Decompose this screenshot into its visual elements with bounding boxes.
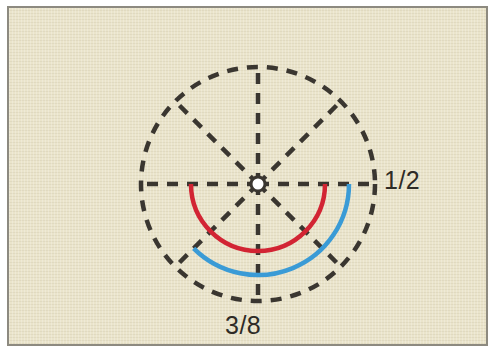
center-hub — [251, 177, 265, 191]
dashed-spoke-315deg — [258, 184, 341, 267]
figure-panel: 1/2 3/8 — [7, 6, 488, 346]
dashed-spoke-45deg — [258, 101, 341, 184]
label-one-half: 1/2 — [384, 166, 420, 195]
dashed-spoke-135deg — [175, 101, 258, 184]
fraction-circle-figure: 1/2 3/8 — [0, 0, 498, 356]
dashed-spoke-225deg — [175, 184, 258, 267]
label-three-eighths: 3/8 — [225, 311, 261, 340]
center-hub-dot — [251, 177, 265, 191]
